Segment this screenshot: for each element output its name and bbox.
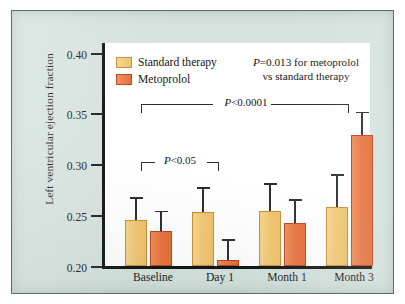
pvalue-annotation-line1-text: =0.013 for metoprolol — [260, 56, 359, 68]
x-axis-line — [102, 266, 372, 269]
pvalue-annotation-line2: vs standard therapy — [244, 69, 368, 83]
y-axis-tick-label: 0.30 — [67, 160, 87, 173]
errorbar-cap — [130, 197, 143, 199]
bar-day-1-metoprolol — [217, 260, 239, 266]
y-axis-tick-label: 0.25 — [67, 211, 87, 224]
legend-label-standard-therapy: Standard therapy — [138, 56, 217, 69]
significance-label-day1-text: <0.05 — [171, 154, 196, 166]
significance-label-overall-text: <0.0001 — [231, 96, 267, 108]
errorbar-stem — [361, 112, 363, 135]
significance-label-overall: P<0.0001 — [211, 96, 281, 108]
errorbar-stem — [336, 174, 338, 207]
bracket-line-left — [141, 104, 213, 105]
significance-bracket-day1: P<0.05 — [141, 162, 219, 172]
y-axis-title: Left ventricular ejection fraction — [43, 29, 55, 229]
bar-month-1-standard-therapy — [259, 211, 281, 266]
bracket-tick-left — [141, 104, 142, 113]
y-axis-tick: 0.40 — [91, 53, 103, 55]
figure-card: Left ventricular ejection fraction 0.20 … — [11, 10, 394, 294]
y-axis-tick: 0.35 — [91, 113, 103, 115]
errorbar-cap — [222, 239, 235, 241]
significance-label-day1: P<0.05 — [153, 154, 207, 166]
x-axis-label-text: Month 1 — [267, 271, 307, 284]
legend: Standard therapy Metoprolol — [116, 55, 217, 89]
errorbar-cap — [155, 211, 168, 213]
bar-month-3-metoprolol — [351, 135, 373, 266]
bracket-line-right — [271, 104, 349, 105]
errorbar-stem — [294, 199, 296, 223]
errorbar-cap — [289, 199, 302, 201]
bar-baseline-standard-therapy — [125, 220, 147, 266]
significance-bracket-overall: P<0.0001 — [141, 104, 349, 114]
legend-label-metoprolol: Metoprolol — [138, 73, 190, 86]
y-axis-tick: 0.30 — [91, 164, 103, 166]
bracket-tick-right — [348, 104, 349, 113]
pvalue-annotation: P=0.013 for metoprolol vs standard thera… — [244, 55, 368, 83]
legend-swatch-metoprolol — [116, 74, 132, 85]
bracket-tick-right — [218, 162, 219, 171]
errorbar-stem — [202, 187, 204, 211]
errorbar-cap — [331, 174, 344, 176]
y-axis-tick-label: 0.20 — [67, 262, 87, 275]
x-axis-label-month3: Month 3 — [309, 271, 399, 284]
pvalue-annotation-line1: P=0.013 for metoprolol — [244, 55, 368, 69]
errorbar-stem — [269, 183, 271, 211]
x-axis-label-text: Baseline — [133, 271, 173, 284]
bracket-tick-left — [141, 162, 142, 171]
y-axis-line — [102, 43, 105, 269]
bar-day-1-standard-therapy — [192, 212, 214, 266]
x-axis-label-text: Month 3 — [334, 271, 374, 284]
x-axis-label-text: Day 1 — [206, 271, 234, 284]
errorbar-stem — [227, 239, 229, 259]
legend-item-metoprolol: Metoprolol — [116, 72, 217, 87]
errorbar-stem — [135, 197, 137, 220]
errorbar-cap — [197, 187, 210, 189]
legend-swatch-standard-therapy — [116, 57, 132, 68]
legend-item-standard-therapy: Standard therapy — [116, 55, 217, 70]
y-axis-tick-label: 0.40 — [67, 49, 87, 62]
errorbar-cap — [264, 183, 277, 185]
errorbar-cap — [356, 112, 369, 114]
y-axis-tick-label: 0.35 — [67, 109, 87, 122]
y-axis-tick: 0.25 — [91, 215, 103, 217]
y-axis-tick: 0.20 — [91, 266, 103, 268]
bar-baseline-metoprolol — [150, 231, 172, 266]
errorbar-stem — [160, 211, 162, 231]
bar-month-3-standard-therapy — [326, 207, 348, 266]
bar-month-1-metoprolol — [284, 223, 306, 266]
